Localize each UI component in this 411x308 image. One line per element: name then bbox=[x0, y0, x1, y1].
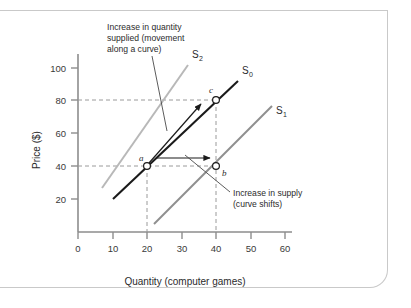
annotation-increase-supply-line2: (curve shifts) bbox=[233, 199, 282, 209]
movement-along-curve-arrow bbox=[149, 104, 201, 163]
y-tick-label-60: 60 bbox=[55, 128, 66, 139]
annotation-quantity-supplied-line2: supplied (movement bbox=[107, 33, 185, 43]
annotation-increase-supply-line1: Increase in supply bbox=[233, 188, 303, 198]
x-tick-label-0: 0 bbox=[75, 243, 80, 254]
y-tick-label-100: 100 bbox=[50, 63, 66, 74]
x-tick-label-10: 10 bbox=[108, 243, 119, 254]
x-tick-label-20: 20 bbox=[142, 243, 153, 254]
curve-label-s0-subscript: 0 bbox=[249, 71, 253, 78]
data-point-a bbox=[144, 163, 151, 170]
y-tick-label-80: 80 bbox=[55, 95, 66, 106]
annotation-quantity-supplied-leader bbox=[152, 56, 167, 131]
curve-label-s2-subscript: 2 bbox=[199, 55, 203, 62]
data-point-label-a: a bbox=[139, 153, 144, 163]
x-tick-label-40: 40 bbox=[211, 243, 222, 254]
x-tick-label-60: 60 bbox=[280, 243, 291, 254]
x-axis-title: Quantity (computer games) bbox=[124, 276, 245, 287]
curve-label-s0: S bbox=[242, 65, 249, 76]
curve-label-s2: S bbox=[192, 49, 199, 60]
y-tick-label-40: 40 bbox=[55, 161, 66, 172]
economics-supply-chart: 100 80 60 40 20 0 10 20 30 40 50 60 Pric… bbox=[0, 0, 411, 308]
y-axis-ticks bbox=[71, 68, 78, 199]
y-tick-label-20: 20 bbox=[55, 194, 66, 205]
x-axis-ticks bbox=[78, 232, 285, 239]
data-point-b bbox=[213, 163, 220, 170]
annotation-quantity-supplied-line1: Increase in quantity bbox=[107, 22, 182, 32]
curve-label-s2-group: S 2 bbox=[192, 49, 203, 62]
curve-label-s1: S bbox=[276, 105, 283, 116]
curve-label-s1-group: S 1 bbox=[276, 105, 287, 118]
chart-svg: 100 80 60 40 20 0 10 20 30 40 50 60 Pric… bbox=[0, 0, 411, 308]
data-point-label-b: b bbox=[222, 168, 227, 178]
curve-label-s1-subscript: 1 bbox=[283, 111, 287, 118]
x-tick-label-30: 30 bbox=[177, 243, 188, 254]
data-point-c bbox=[213, 97, 220, 104]
curve-label-s0-group: S 0 bbox=[242, 65, 253, 78]
x-tick-label-50: 50 bbox=[246, 243, 257, 254]
data-point-label-c: c bbox=[209, 85, 213, 95]
y-axis-title: Price ($) bbox=[31, 131, 42, 169]
annotation-quantity-supplied-line3: along a curve) bbox=[107, 44, 162, 54]
